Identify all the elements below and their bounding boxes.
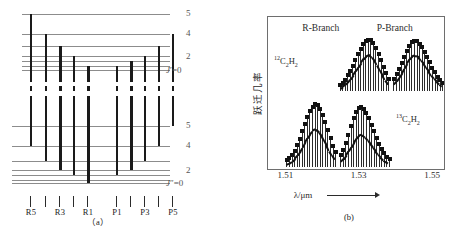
- spectral-peak-marker: [377, 52, 381, 56]
- transition-tick-P3: [144, 196, 145, 207]
- transition-label-P5: P5: [168, 207, 177, 217]
- spectral-peak-marker: [323, 120, 327, 124]
- spectral-stem: [307, 118, 308, 167]
- spectral-stem: [414, 42, 415, 91]
- spectral-stem: [401, 64, 402, 91]
- spectral-peak-marker: [423, 50, 427, 54]
- spectral-peak-marker: [374, 46, 378, 50]
- x-tick-label-1-53: 1.53: [351, 170, 367, 180]
- x-axis-title: λ/μm: [294, 190, 313, 200]
- transition-tick-P5: [172, 196, 173, 207]
- transition-tick-P4: [158, 196, 159, 207]
- spectral-peak-marker: [318, 107, 322, 111]
- spectral-peak-marker: [367, 116, 371, 120]
- x-tick-label-1-51: 1.51: [277, 170, 293, 180]
- transition-tick-R3: [59, 196, 60, 207]
- spectral-peak-marker: [387, 77, 391, 81]
- isotope-label-12c2h2: 12C2H2: [274, 55, 298, 68]
- figure-root: R5R3R1P1P3P5 5 4 2 J′=0 5 4 2 J″=0 （a） R…: [0, 0, 462, 232]
- spectral-stem: [406, 52, 407, 92]
- spectral-peak-marker: [382, 65, 386, 69]
- spectral-stem: [442, 84, 443, 91]
- upper-j-value: =0: [172, 65, 182, 75]
- stem-plot-container: [268, 17, 444, 169]
- spectral-peak-marker: [331, 144, 335, 148]
- spectral-stem: [389, 160, 390, 167]
- upper-level-label-2: 2: [186, 51, 191, 61]
- spectral-stem: [404, 58, 405, 91]
- spectral-peak-marker: [370, 123, 374, 127]
- spectral-peak-marker: [380, 147, 384, 151]
- spectral-stem: [365, 42, 366, 91]
- spectral-stem: [422, 48, 423, 91]
- spectral-stem: [320, 110, 321, 167]
- spectral-peak-marker: [420, 45, 424, 49]
- spectral-stem: [360, 50, 361, 91]
- spectral-peak-marker: [388, 157, 392, 161]
- transition-tick-R5: [30, 196, 31, 207]
- spectral-stem: [417, 42, 418, 91]
- transition-label-R3: R3: [55, 207, 65, 217]
- spectral-stem: [373, 44, 374, 91]
- isotope-label-13c2h2: 13C2H2: [396, 113, 420, 126]
- transition-label-R5: R5: [26, 207, 36, 217]
- spectrum-plot-area: R-Branch P-Branch 12C2H2 13C2H2: [267, 16, 445, 170]
- transition-tick-R1: [87, 196, 88, 207]
- y-axis-label: 跃迁几率: [250, 55, 264, 131]
- spectral-peak-marker: [428, 60, 432, 64]
- spectral-peak-marker: [372, 129, 376, 133]
- spectral-peak-marker: [371, 41, 375, 45]
- spectral-peak-marker: [321, 113, 325, 117]
- spectral-stem: [315, 105, 316, 167]
- envelope-segment: [401, 68, 405, 74]
- spectral-peak-marker: [425, 55, 429, 59]
- spectral-stem: [309, 112, 310, 167]
- spectral-stem: [388, 80, 389, 91]
- transition-tick-R4: [45, 196, 46, 207]
- spectral-peak-marker: [384, 71, 388, 75]
- x-tick-label-1-55: 1.55: [424, 170, 440, 180]
- isotope-upper-h-sub: 2: [295, 62, 298, 68]
- spectral-stem: [335, 153, 336, 167]
- transition-tick-R2: [73, 196, 74, 207]
- panel-b-caption: (b): [344, 212, 354, 222]
- panel-b-spectrum-chart: R-Branch P-Branch 12C2H2 13C2H2 1.511.53…: [231, 0, 462, 232]
- upper-level-label-5: 5: [186, 8, 191, 18]
- transition-label-P3: P3: [140, 207, 149, 217]
- spectral-stem: [363, 45, 364, 91]
- spectral-stem: [370, 41, 371, 91]
- spectral-peak-marker: [379, 58, 383, 62]
- spectral-peak-marker: [430, 66, 434, 70]
- x-axis-arrow-line: [327, 195, 375, 196]
- lower-level-label-4: 4: [186, 140, 191, 150]
- spectral-stem: [361, 108, 362, 167]
- spectral-peak-marker: [377, 142, 381, 146]
- spectral-stem: [355, 61, 356, 91]
- spectral-stem: [409, 47, 410, 91]
- spectral-stem: [411, 43, 412, 91]
- isotope-lower-h-sub: 2: [417, 120, 420, 126]
- spectral-peak-marker: [326, 128, 330, 132]
- spectral-peak-marker: [375, 136, 379, 140]
- spectral-stem: [419, 45, 420, 91]
- lower-level-label-5: 5: [186, 120, 191, 130]
- spectral-stem: [358, 55, 359, 91]
- transition-label-P1: P1: [112, 207, 121, 217]
- spectral-stem: [317, 106, 318, 167]
- x-axis-arrow-head: [375, 192, 380, 198]
- spectral-peak-marker: [329, 136, 333, 140]
- spectral-peak-marker: [334, 150, 338, 154]
- panel-a-energy-level-diagram: R5R3R1P1P3P5 5 4 2 J′=0 5 4 2 J″=0 （a）: [0, 0, 231, 232]
- transition-tick-P1: [116, 196, 117, 207]
- envelope-segment: [299, 147, 303, 152]
- transition-tick-row: R5R3R1P1P3P5: [0, 0, 231, 232]
- spectral-stem: [312, 108, 313, 168]
- spectral-stem: [368, 41, 369, 91]
- lower-level-label-2: 2: [186, 165, 191, 175]
- lower-j-quantum-label: J″=0: [166, 178, 183, 188]
- transition-tick-P2: [130, 196, 131, 207]
- branch-label-r: R-Branch: [302, 23, 339, 33]
- spectral-peak-marker: [364, 111, 368, 115]
- upper-level-label-4: 4: [186, 28, 191, 38]
- branch-label-p: P-Branch: [377, 23, 413, 33]
